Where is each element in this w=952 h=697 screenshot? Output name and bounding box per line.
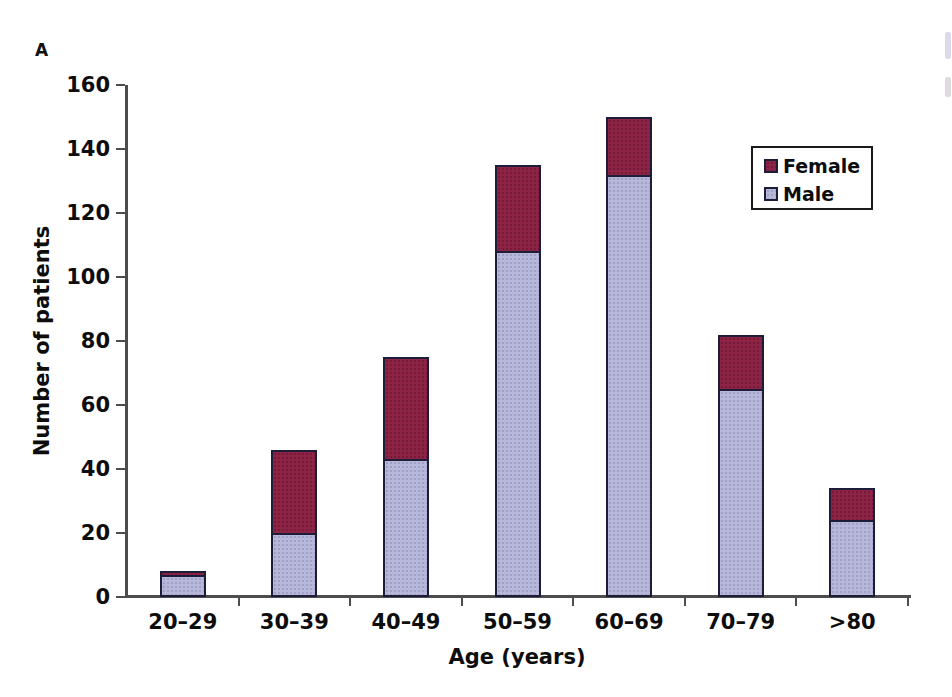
x-tick-mark <box>795 598 797 606</box>
bar-segment-male-5 <box>606 175 652 597</box>
x-category-label: 20–29 <box>148 610 217 634</box>
legend: FemaleMale <box>751 146 873 210</box>
y-tick-label: 100 <box>66 265 110 289</box>
y-tick-mark <box>116 340 125 342</box>
bar-segment-female-5 <box>606 117 652 175</box>
legend-swatch-male <box>764 187 778 201</box>
bar-segment-female-4 <box>495 165 541 251</box>
x-tick-mark <box>349 598 351 606</box>
figure-panel-a: A 020406080100120140160 20–2930–3940–495… <box>0 0 952 697</box>
x-category-label: >80 <box>829 610 876 634</box>
x-tick-mark <box>684 598 686 606</box>
legend-entry-female: Female <box>764 156 860 176</box>
y-tick-label: 140 <box>66 137 110 161</box>
x-category-label: 40–49 <box>371 610 440 634</box>
x-category-label: 30–39 <box>260 610 329 634</box>
bar-segment-female-1 <box>160 571 206 574</box>
scan-artifact <box>945 77 951 97</box>
x-tick-mark <box>572 598 574 606</box>
bar-segment-male-4 <box>495 251 541 597</box>
y-tick-mark <box>116 276 125 278</box>
x-tick-mark <box>907 598 909 606</box>
y-tick-label: 80 <box>81 329 110 353</box>
y-tick-mark <box>116 532 125 534</box>
y-tick-label: 160 <box>66 73 110 97</box>
y-tick-label: 40 <box>81 457 110 481</box>
x-axis-title: Age (years) <box>449 645 586 669</box>
bar-segment-male-7 <box>829 520 875 597</box>
scan-artifact <box>945 32 951 59</box>
y-tick-label: 120 <box>66 201 110 225</box>
legend-entry-male: Male <box>764 184 834 204</box>
y-tick-mark <box>116 468 125 470</box>
y-tick-mark <box>116 596 125 598</box>
bar-segment-female-3 <box>383 357 429 459</box>
bar-segment-male-3 <box>383 459 429 597</box>
y-tick-mark <box>116 212 125 214</box>
y-tick-mark <box>116 84 125 86</box>
x-category-label: 70–79 <box>706 610 775 634</box>
x-category-label: 50–59 <box>483 610 552 634</box>
bar-segment-male-2 <box>271 533 317 597</box>
y-tick-mark <box>116 404 125 406</box>
legend-label: Male <box>783 184 834 204</box>
x-tick-mark <box>238 598 240 606</box>
y-axis-title: Number of patients <box>30 226 54 456</box>
bar-segment-male-1 <box>160 575 206 597</box>
bar-segment-female-7 <box>829 488 875 520</box>
panel-label: A <box>35 40 48 60</box>
legend-label: Female <box>783 156 860 176</box>
y-tick-label: 60 <box>81 393 110 417</box>
bar-segment-male-6 <box>718 389 764 597</box>
y-tick-label: 0 <box>95 585 110 609</box>
x-category-label: 60–69 <box>595 610 664 634</box>
y-tick-mark <box>116 148 125 150</box>
bar-segment-female-2 <box>271 450 317 533</box>
legend-swatch-female <box>764 159 778 173</box>
bar-segment-female-6 <box>718 335 764 389</box>
y-tick-label: 20 <box>81 521 110 545</box>
y-axis-line <box>125 85 128 598</box>
x-tick-mark <box>461 598 463 606</box>
